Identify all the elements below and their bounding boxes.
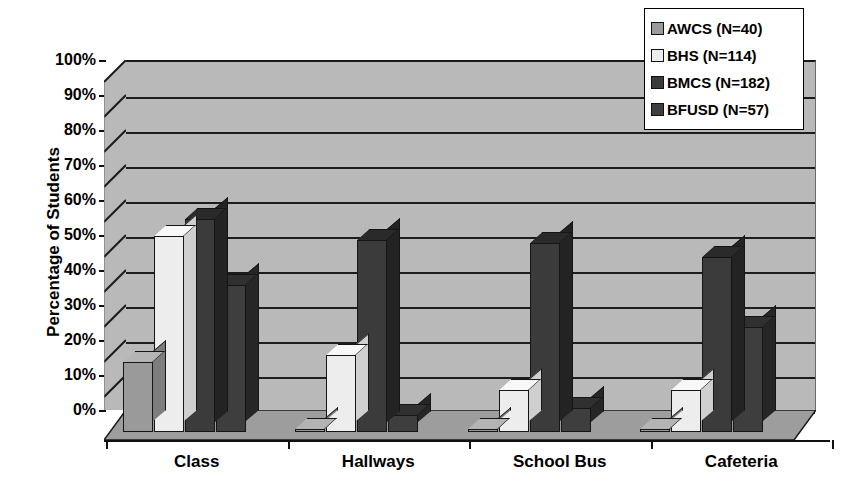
chart-legend: AWCS (N=40)BHS (N=114)BMCS (N=182)BFUSD … bbox=[644, 8, 804, 130]
x-axis-label-cafeteria: Cafeteria bbox=[651, 452, 831, 472]
legend-label: AWCS (N=40) bbox=[667, 20, 762, 37]
bar-face bbox=[640, 429, 670, 432]
legend-swatch-icon bbox=[651, 49, 664, 62]
y-axis-tick-label: 80% bbox=[64, 122, 96, 138]
y-axis-tick-label: 50% bbox=[64, 227, 96, 243]
bar-face bbox=[499, 390, 529, 432]
bar-face bbox=[295, 429, 325, 432]
legend-item[interactable]: BFUSD (N=57) bbox=[651, 96, 797, 123]
x-axis-label-school-bus: School Bus bbox=[470, 452, 650, 472]
y-axis-tick-label: 0% bbox=[73, 402, 96, 418]
bar-face bbox=[388, 415, 418, 433]
bar-side bbox=[215, 197, 228, 421]
legend-swatch-icon bbox=[651, 103, 664, 116]
y-axis-tick-label: 10% bbox=[64, 367, 96, 383]
bar-face bbox=[123, 362, 153, 432]
y-axis-ticks: 100%90%80%70%60%50%40%30%20%10%0% bbox=[28, 0, 100, 488]
bar-bfusd-hallways bbox=[388, 415, 418, 433]
x-axis-line bbox=[104, 440, 830, 442]
bar-awcs-school-bus bbox=[468, 429, 498, 432]
bar-side bbox=[732, 235, 745, 421]
legend-item[interactable]: BHS (N=114) bbox=[651, 42, 797, 69]
bar-awcs-cafeteria bbox=[640, 429, 670, 432]
y-axis-tick-label: 90% bbox=[64, 87, 96, 103]
x-axis-tick bbox=[651, 440, 653, 449]
x-axis-tick bbox=[832, 440, 834, 449]
x-axis-tick bbox=[469, 440, 471, 449]
bar-face bbox=[671, 390, 701, 432]
bar-side bbox=[560, 221, 573, 421]
legend-swatch-icon bbox=[651, 76, 664, 89]
bar-side bbox=[246, 263, 259, 421]
legend-item[interactable]: AWCS (N=40) bbox=[651, 15, 797, 42]
x-axis-tick bbox=[106, 440, 108, 449]
bar-awcs-class bbox=[123, 362, 153, 432]
y-axis-tick-label: 40% bbox=[64, 262, 96, 278]
y-axis-tick-label: 30% bbox=[64, 297, 96, 313]
bar-bhs-school-bus bbox=[499, 390, 529, 432]
x-axis-tick bbox=[288, 440, 290, 449]
bar-face bbox=[468, 429, 498, 432]
legend-swatch-icon bbox=[651, 22, 664, 35]
legend-label: BMCS (N=182) bbox=[667, 74, 770, 91]
x-axis-label-hallways: Hallways bbox=[288, 452, 468, 472]
legend-label: BFUSD (N=57) bbox=[667, 101, 769, 118]
bar-awcs-hallways bbox=[295, 429, 325, 432]
y-axis-tick-label: 70% bbox=[64, 157, 96, 173]
bar-side bbox=[184, 214, 197, 421]
legend-label: BHS (N=114) bbox=[667, 47, 757, 64]
y-axis-tick-label: 60% bbox=[64, 192, 96, 208]
bar-chart: Percentage of Students 100%90%80%70%60%5… bbox=[0, 0, 849, 488]
x-axis-label-class: Class bbox=[107, 452, 287, 472]
y-axis-tick-label: 100% bbox=[55, 52, 96, 68]
bar-bhs-cafeteria bbox=[671, 390, 701, 432]
y-axis-tick-label: 20% bbox=[64, 332, 96, 348]
bar-side bbox=[387, 218, 400, 421]
legend-item[interactable]: BMCS (N=182) bbox=[651, 69, 797, 96]
